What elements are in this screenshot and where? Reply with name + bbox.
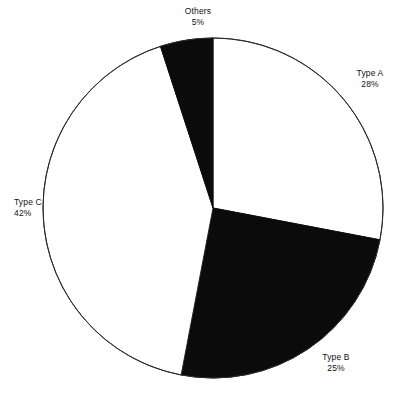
pie-label-type-a: Type A 28% — [345, 68, 395, 90]
pie-label-type-b-name: Type B — [311, 352, 361, 363]
pie-label-others-value: 5% — [171, 17, 225, 28]
pie-label-type-c-value: 42% — [14, 208, 64, 219]
pie-label-type-b: Type B 25% — [311, 352, 361, 374]
pie-label-type-a-value: 28% — [345, 79, 395, 90]
pie-label-type-c: Type C 42% — [14, 197, 64, 219]
pie-label-type-b-value: 25% — [311, 363, 361, 374]
pie-label-type-c-name: Type C — [14, 197, 64, 208]
pie-label-others-name: Others — [171, 6, 225, 17]
pie-chart-page: Others 5% Type A 28% Type B 25% Type C 4… — [0, 0, 399, 396]
pie-label-type-a-name: Type A — [345, 68, 395, 79]
pie-label-others: Others 5% — [171, 6, 225, 28]
